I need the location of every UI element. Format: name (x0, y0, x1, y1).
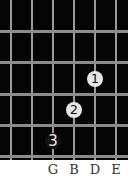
string-label: B (66, 162, 82, 177)
string-label: E (108, 162, 124, 177)
fret-line (0, 155, 128, 158)
fret-line (0, 30, 128, 33)
string-line (115, 0, 117, 160)
string-label: G (45, 162, 61, 177)
fret-line (0, 124, 128, 127)
fret-line (0, 93, 128, 96)
finger-dot: 3 (45, 133, 61, 149)
string-line (10, 0, 12, 160)
finger-dot: 1 (87, 71, 103, 87)
finger-dot: 2 (66, 102, 82, 118)
fret-line (0, 61, 128, 64)
string-label: D (87, 162, 103, 177)
string-line (73, 0, 75, 160)
string-line (31, 0, 33, 160)
fretboard: 123 (0, 0, 128, 160)
